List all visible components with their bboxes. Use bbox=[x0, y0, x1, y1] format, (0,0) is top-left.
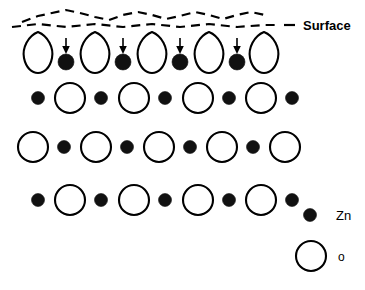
ion-zn bbox=[32, 92, 45, 105]
ion-zn bbox=[286, 194, 299, 207]
ion-o-teardrop bbox=[195, 32, 224, 73]
ion-o bbox=[119, 83, 149, 113]
ion-zn bbox=[223, 194, 236, 207]
ion-o-teardrop bbox=[24, 32, 53, 73]
ion-o bbox=[183, 185, 213, 215]
surface-dashed-line-lower bbox=[12, 24, 278, 27]
ion-zn bbox=[172, 54, 188, 70]
legend-o-marker-icon bbox=[296, 241, 326, 271]
ion-o bbox=[270, 132, 300, 162]
ion-o bbox=[119, 185, 149, 215]
lattice-row-bulk-1 bbox=[32, 83, 299, 113]
legend-item-zn: Zn bbox=[304, 208, 352, 223]
surface-label-group: Surface bbox=[284, 18, 351, 33]
ion-zn bbox=[115, 54, 131, 70]
lattice-row-bulk-2 bbox=[18, 132, 300, 162]
ion-o-teardrop bbox=[138, 32, 167, 73]
ion-o bbox=[207, 132, 237, 162]
legend-zn-marker-icon bbox=[304, 209, 317, 222]
surface-dashed-line-upper bbox=[22, 10, 265, 22]
ion-o-teardrop bbox=[81, 32, 110, 73]
ion-o-teardrop bbox=[250, 32, 279, 73]
legend: Zn o bbox=[296, 208, 351, 271]
ion-o bbox=[55, 185, 85, 215]
ion-zn-with-arrow bbox=[229, 38, 245, 70]
legend-item-o: o bbox=[296, 241, 345, 271]
ion-o bbox=[18, 132, 48, 162]
ion-zn-with-arrow bbox=[115, 38, 131, 70]
ion-zn bbox=[223, 92, 236, 105]
lattice-row-surface bbox=[24, 32, 279, 73]
ion-zn-with-arrow bbox=[172, 38, 188, 70]
ion-zn bbox=[32, 194, 45, 207]
ion-zn bbox=[159, 92, 172, 105]
ion-o bbox=[144, 132, 174, 162]
ion-o bbox=[246, 185, 276, 215]
ion-o bbox=[81, 132, 111, 162]
ion-zn-with-arrow bbox=[58, 38, 74, 70]
ion-zn bbox=[95, 92, 108, 105]
zno-surface-relaxation-figure: Surface bbox=[0, 0, 365, 290]
ion-zn bbox=[286, 92, 299, 105]
ion-zn bbox=[121, 141, 134, 154]
ion-zn bbox=[58, 54, 74, 70]
ion-zn bbox=[58, 141, 71, 154]
ion-zn bbox=[95, 194, 108, 207]
ion-zn bbox=[229, 54, 245, 70]
lattice-row-bulk-3 bbox=[32, 185, 299, 215]
ion-o bbox=[183, 83, 213, 113]
ion-zn bbox=[184, 141, 197, 154]
ion-o bbox=[246, 83, 276, 113]
ion-zn bbox=[159, 194, 172, 207]
legend-label-zn: Zn bbox=[336, 208, 351, 223]
ion-o bbox=[55, 83, 85, 113]
surface-label: Surface bbox=[303, 18, 351, 33]
ion-zn bbox=[247, 141, 260, 154]
legend-label-o: o bbox=[338, 250, 345, 264]
